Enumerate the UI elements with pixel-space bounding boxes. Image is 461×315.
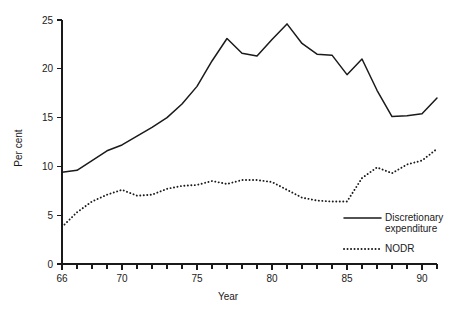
x-tick-label: 70 — [116, 273, 128, 284]
y-tick-label: 15 — [42, 112, 54, 123]
tick-labels: 0510152025667075808590 — [42, 15, 428, 284]
x-tick-label: 90 — [416, 273, 428, 284]
legend-label-nodr: NODR — [385, 243, 414, 254]
x-tick-label: 80 — [266, 273, 278, 284]
y-tick-label: 10 — [42, 161, 54, 172]
tick-marks — [57, 20, 437, 270]
data-series — [62, 24, 437, 227]
y-tick-label: 20 — [42, 63, 54, 74]
legend-label-discretionary-expenditure-line2: expenditure — [385, 223, 438, 234]
legend: Discretionary expenditure NODR — [344, 212, 443, 254]
x-tick-label: 66 — [56, 273, 68, 284]
legend-label-discretionary-expenditure-line1: Discretionary — [385, 212, 443, 223]
line-chart: 0510152025667075808590 Per cent Year Dis… — [0, 0, 461, 315]
y-axis-title: Per cent — [13, 129, 24, 166]
x-tick-label: 85 — [341, 273, 353, 284]
series-nodr — [62, 149, 437, 227]
x-tick-label: 75 — [191, 273, 203, 284]
chart-container: 0510152025667075808590 Per cent Year Dis… — [0, 0, 461, 315]
x-axis-title: Year — [218, 291, 239, 302]
y-tick-label: 5 — [47, 210, 53, 221]
y-tick-label: 0 — [47, 259, 53, 270]
series-discretionary-expenditure — [62, 24, 437, 172]
axes — [62, 20, 437, 264]
y-tick-label: 25 — [42, 15, 54, 26]
